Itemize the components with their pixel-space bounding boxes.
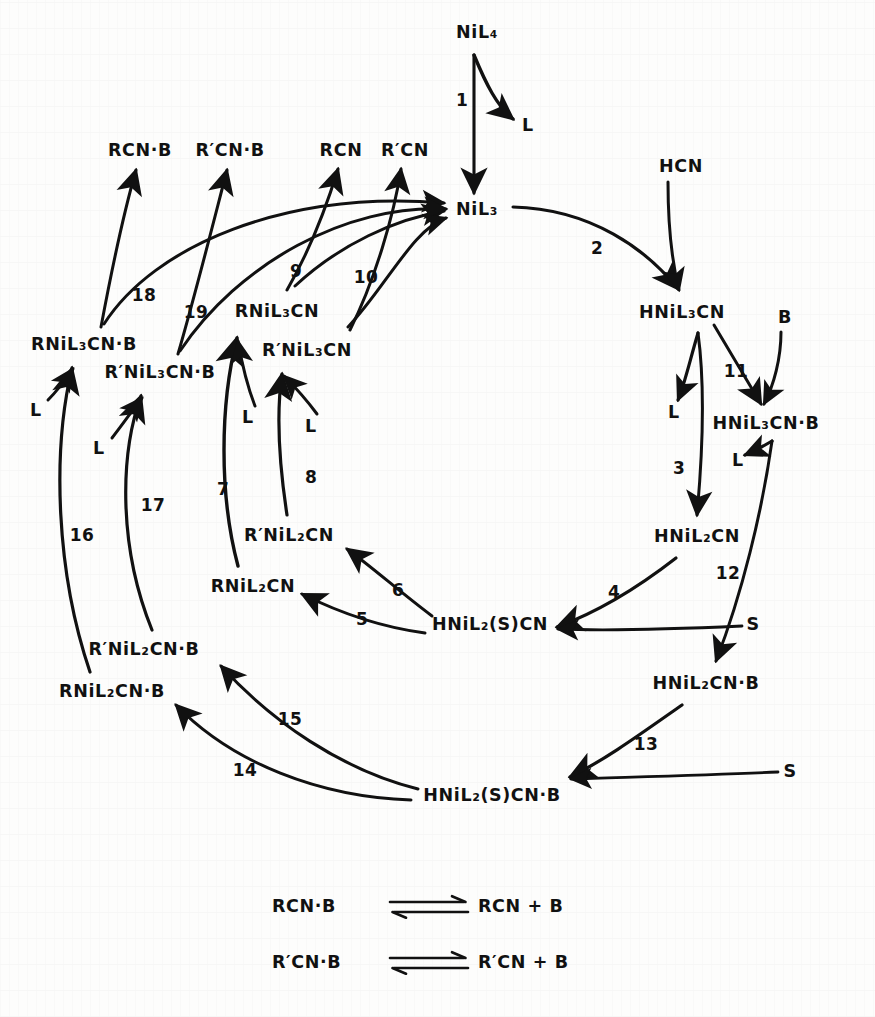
arrow-step-6 bbox=[347, 549, 432, 616]
species-rpnil2cnb: R′NiL₂CN·B bbox=[88, 641, 199, 659]
equilibrium-2-arrows bbox=[386, 949, 472, 975]
arrow-step-10 bbox=[350, 169, 401, 330]
arrow-s-inflow-13 bbox=[571, 772, 778, 779]
equilibrium-1-right: RCN + B bbox=[478, 896, 563, 916]
step-label-7: 7 bbox=[217, 481, 229, 498]
step-label-3: 3 bbox=[673, 460, 685, 477]
arrow-b-inflow bbox=[764, 332, 781, 404]
species-rnil2cn: RNiL₂CN bbox=[211, 578, 296, 596]
arrow-L-into-7 bbox=[238, 341, 255, 406]
species-l-outer-2: L bbox=[93, 440, 105, 458]
step-label-2: 2 bbox=[591, 240, 603, 257]
step-label-6: 6 bbox=[392, 582, 404, 599]
step-label-9: 9 bbox=[290, 263, 302, 280]
equilibrium-1-left: RCN·B bbox=[272, 896, 380, 916]
species-nil3: NiL₃ bbox=[456, 201, 498, 219]
species-rnil3cn: RNiL₃CN bbox=[235, 303, 320, 321]
species-s-right-2: S bbox=[783, 763, 796, 781]
species-hnil2cn: HNiL₂CN bbox=[654, 528, 740, 546]
step-label-14: 14 bbox=[233, 762, 257, 779]
equilibrium-2-left: R′CN·B bbox=[272, 952, 380, 972]
species-rpnil3cn: R′NiL₃CN bbox=[262, 342, 352, 360]
species-rcnb: RCN·B bbox=[108, 142, 172, 160]
step-label-10: 10 bbox=[354, 269, 378, 286]
species-s-right-1: S bbox=[746, 616, 759, 634]
step-label-1: 1 bbox=[456, 92, 468, 109]
species-l-right-2: L bbox=[732, 452, 744, 470]
arrow-step-13 bbox=[570, 705, 682, 777]
step-label-4: 4 bbox=[608, 584, 620, 601]
arrow-s-inflow-4 bbox=[558, 626, 742, 630]
species-rcn: RCN bbox=[320, 142, 363, 160]
arrow-L-into-17 bbox=[112, 398, 142, 438]
equilibrium-row-2: R′CN·B R′CN + B bbox=[272, 949, 569, 975]
species-rpnil3cnb: R′NiL₃CN·B bbox=[104, 364, 215, 382]
step-label-19: 19 bbox=[184, 304, 208, 321]
species-rpnil2cn: R′NiL₂CN bbox=[244, 527, 334, 545]
arrow-step-19 bbox=[178, 170, 227, 354]
step-label-15: 15 bbox=[278, 711, 302, 728]
step-label-17: 17 bbox=[141, 497, 165, 514]
step-label-18: 18 bbox=[132, 287, 156, 304]
arrow-hcn-inflow bbox=[668, 182, 679, 290]
species-hnil2scn: HNiL₂(S)CN bbox=[432, 616, 548, 634]
species-hnil2cnb: HNiL₂CN·B bbox=[653, 675, 760, 693]
species-hnil2scnb: HNiL₂(S)CN·B bbox=[423, 787, 560, 805]
step-label-13: 13 bbox=[634, 736, 658, 753]
species-rnil3cnb: RNiL₃CN·B bbox=[31, 336, 137, 354]
arrow-step-8 bbox=[279, 374, 287, 515]
arrow-step-7 bbox=[224, 338, 238, 566]
equilibrium-2-right: R′CN + B bbox=[478, 952, 569, 972]
arrow-step-19-to-nil3 bbox=[180, 209, 446, 351]
species-rnil2cnb: RNiL₂CN·B bbox=[59, 683, 165, 701]
species-hnil3cnb: HNiL₃CN·B bbox=[713, 415, 820, 433]
step-label-5: 5 bbox=[356, 611, 368, 628]
equilibrium-1-arrows bbox=[386, 893, 472, 919]
species-nil4: NiL₄ bbox=[456, 24, 498, 42]
arrow-step-3 bbox=[697, 333, 703, 515]
equilibrium-row-1: RCN·B RCN + B bbox=[272, 893, 563, 919]
arrow-step-16 bbox=[60, 368, 90, 672]
step-label-16: 16 bbox=[70, 527, 94, 544]
species-l-outer-1: L bbox=[30, 402, 42, 420]
species-hnil3cn: HNiL₃CN bbox=[639, 304, 725, 322]
species-rpcnb: R′CN·B bbox=[195, 142, 264, 160]
arrow-step-1-to-L bbox=[474, 55, 513, 119]
species-l-inner-2: L bbox=[305, 418, 317, 436]
arrow-L-into-8 bbox=[284, 376, 317, 414]
species-rpcn: R′CN bbox=[381, 142, 429, 160]
arrow-step-3-to-L bbox=[678, 333, 698, 400]
species-hcn: HCN bbox=[659, 158, 703, 176]
step-label-11: 11 bbox=[724, 363, 748, 380]
species-l-top: L bbox=[522, 117, 534, 135]
step-label-8: 8 bbox=[305, 469, 317, 486]
step-label-12: 12 bbox=[716, 565, 740, 582]
figure-canvas: NiL₄ L NiL₃ HCN HNiL₃CN B L HNiL₃CN·B L … bbox=[0, 0, 875, 1017]
arrow-step-12-to-L bbox=[745, 441, 772, 455]
species-b-right: B bbox=[778, 309, 792, 327]
species-l-inner-1: L bbox=[242, 409, 254, 427]
species-l-right-1: L bbox=[668, 404, 680, 422]
